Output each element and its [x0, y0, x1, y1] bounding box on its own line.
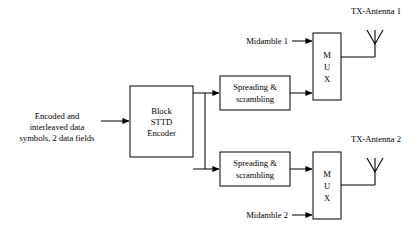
mux-top-letter-u: U: [324, 62, 331, 72]
block-spreading-scrambling-top: Spreading & scrambling: [220, 76, 290, 110]
mux-bottom-letter-m: M: [323, 169, 331, 179]
diagram-canvas: Block STTD Encoder Spreading & scramblin…: [0, 0, 420, 246]
input-label-line1: Encoded and: [35, 111, 80, 121]
sttd-encoder-label-line1: Block: [151, 106, 172, 116]
mux-top-letter-x: X: [324, 74, 331, 84]
tx-antenna-2-label: TX-Antenna 2: [351, 134, 401, 144]
input-label-line3: symbols, 2 data fields: [20, 133, 96, 143]
sttd-encoder-label-line2: STTD: [151, 117, 172, 127]
spreading-top-label-line2: scrambling: [236, 94, 275, 104]
block-diagram: Block STTD Encoder Spreading & scramblin…: [0, 0, 420, 246]
block-sttd-encoder: Block STTD Encoder: [130, 86, 193, 157]
midamble-2-label: Midamble 2: [246, 210, 288, 220]
block-mux-bottom: M U X: [313, 152, 341, 219]
mux-bottom-letter-x: X: [324, 193, 331, 203]
tx-antenna-2-icon: [367, 158, 383, 185]
spreading-bottom-label-line1: Spreading &: [233, 158, 277, 168]
block-mux-top: M U X: [313, 33, 341, 100]
midamble-1-label: Midamble 1: [246, 36, 288, 46]
spreading-top-label-line1: Spreading &: [233, 82, 277, 92]
sttd-encoder-label-line3: Encoder: [147, 128, 176, 138]
input-label-line2: interleaved data: [30, 122, 85, 132]
mux-bottom-letter-u: U: [324, 181, 331, 191]
block-spreading-scrambling-bottom: Spreading & scrambling: [220, 152, 290, 186]
tx-antenna-1-icon: [367, 30, 383, 57]
mux-top-letter-m: M: [323, 50, 331, 60]
tx-antenna-1-label: TX-Antenna 1: [351, 6, 401, 16]
spreading-bottom-label-line2: scrambling: [236, 170, 275, 180]
